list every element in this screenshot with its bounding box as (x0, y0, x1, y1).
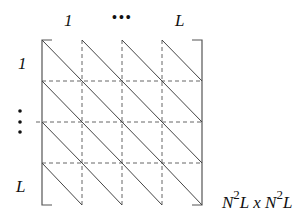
grid-dashed-lines (36, 40, 202, 205)
column-label-last: L (174, 11, 184, 30)
matrix-size-label: N2L x N2L (221, 187, 292, 212)
row-label-first: 1 (18, 54, 27, 73)
row-label-last: L (15, 177, 25, 196)
block-matrix-diagram: 1 ••• L 1 L N2L x N2L (0, 0, 306, 217)
column-label-first: 1 (64, 11, 73, 30)
row-ellipsis (18, 109, 22, 134)
column-ellipsis: ••• (112, 9, 133, 25)
